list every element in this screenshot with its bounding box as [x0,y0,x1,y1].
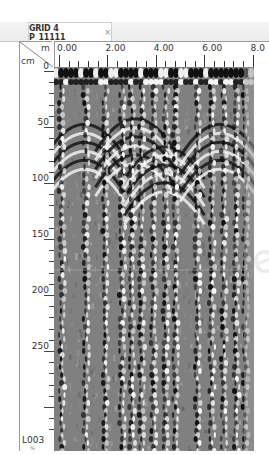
y-unit-label: cm [21,56,35,66]
x-tick [156,55,157,67]
x-tick [107,55,108,67]
depth-ruler: L003 % 050100150200250 [19,67,54,451]
radargram-viewer: m cm 0.002.004.006.008.0 L003 % 05010015… [19,41,269,451]
y-tick [44,407,54,408]
close-icon[interactable]: × [104,28,111,37]
y-axis-label: 200 [32,285,49,295]
x-axis-label: 8.0 [251,43,265,53]
y-axis-label: 250 [32,341,49,351]
radargram-plot[interactable] [54,67,254,451]
y-tick [44,295,54,296]
x-axis-label: 6.00 [202,43,222,53]
line-id-label: L003 [22,435,44,445]
gpr-signal-image [54,67,254,451]
y-axis-label: 0 [43,61,49,71]
y-tick [44,351,54,352]
x-axis-label: 0.00 [57,43,77,53]
tab-grid4-p11111[interactable]: GRID 4 P_11111 × [28,22,112,42]
y-tick [44,239,54,240]
x-tick [253,55,254,67]
tab-label: GRID 4 P_11111 [29,24,96,42]
y-tick [44,183,54,184]
x-axis-label: 4.00 [154,43,174,53]
x-tick [204,55,205,67]
y-axis-label: 100 [32,173,49,183]
y-axis-label: 150 [32,229,49,239]
y-tick [44,71,54,72]
document-tab-bar: GRID 4 P_11111 × [0,22,269,42]
y-tick [44,127,54,128]
y-axis-label: 50 [38,117,49,127]
distance-ruler: 0.002.004.006.008.0 [54,41,269,67]
x-unit-label: m [41,43,50,53]
x-tick [59,55,60,67]
x-axis-label: 2.00 [105,43,125,53]
line-sublabel: % [30,445,35,451]
